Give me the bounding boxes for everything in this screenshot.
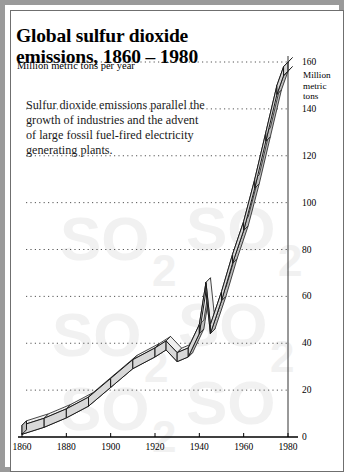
y-axis-tick-label: 60 (302, 291, 312, 301)
y-axis-unit-label: Million metric tons (303, 70, 331, 102)
data-band-group (22, 58, 293, 435)
y-axis-tick-label: 160 (302, 57, 316, 67)
x-axis-tick-label: 1940 (179, 442, 219, 452)
x-axis-tick-label: 1880 (46, 442, 86, 452)
x-axis-tick-label: 1980 (268, 442, 308, 452)
y-axis-unit-line2: metric (303, 81, 326, 91)
y-axis-tick-label: 40 (302, 338, 312, 348)
y-axis-tick-label: 140 (302, 104, 316, 114)
x-axis-tick-label: 1900 (91, 442, 131, 452)
y-axis-unit-line3: tons (303, 91, 318, 101)
y-axis-tick-label: 100 (302, 198, 316, 208)
line-chart (0, 0, 344, 472)
y-axis-tick-label: 80 (302, 245, 312, 255)
y-axis-unit-line1: Million (303, 70, 331, 80)
x-axis-tick-label: 1860 (2, 442, 42, 452)
x-axis-tick-label: 1920 (135, 442, 175, 452)
axes-group (18, 56, 298, 437)
y-axis-tick-label: 20 (302, 385, 312, 395)
y-axis-tick-label: 120 (302, 151, 316, 161)
x-axis-tick-label: 1960 (224, 442, 264, 452)
gridlines-group (26, 62, 288, 390)
y-axis-tick-label: 0 (302, 432, 307, 442)
